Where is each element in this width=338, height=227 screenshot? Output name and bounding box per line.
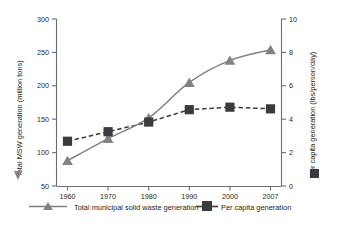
x-tick-label: 1990 (181, 192, 197, 201)
data-point-square (225, 103, 234, 112)
right-axis-title: Per capita generation (lbs/person/day) (308, 52, 317, 177)
left-tick-label: 100 (37, 148, 49, 157)
right-axis: 0246810 Per capita generation (lbs/perso… (282, 15, 320, 191)
x-tick-label: 1980 (141, 192, 157, 201)
total-msw-generation-line (68, 50, 271, 161)
right-tick-label: 0 (289, 182, 293, 191)
right-tick-label: 6 (289, 81, 293, 90)
left-axis-tick-labels: 50100150200250300 (37, 15, 49, 191)
left-tick-label: 150 (37, 115, 49, 124)
right-axis-ticks (282, 19, 287, 186)
left-axis: 50100150200250300 Total MSW generation (… (14, 15, 57, 191)
data-point-square (266, 104, 275, 113)
legend-square-icon (202, 201, 212, 211)
right-tick-label: 4 (289, 115, 293, 124)
x-tick-label: 1970 (100, 192, 116, 201)
plot-area (62, 45, 276, 165)
right-tick-label: 2 (289, 148, 293, 157)
right-axis-square-icon (310, 169, 319, 178)
x-tick-label: 2007 (263, 192, 279, 201)
legend-label-per-capita: Per capita generation (221, 203, 291, 212)
total-msw-generation-markers (62, 45, 276, 165)
data-point-square (63, 137, 72, 146)
left-axis-title: Total MSW generation (million tons) (15, 60, 24, 177)
legend-label-total-msw: Total municipal solid waste generation (74, 203, 198, 212)
left-tick-label: 250 (37, 48, 49, 57)
x-tick-label: 1960 (60, 192, 76, 201)
right-tick-label: 10 (289, 15, 297, 24)
data-point-square (144, 117, 153, 126)
left-tick-label: 300 (37, 15, 49, 24)
left-tick-label: 200 (37, 81, 49, 90)
right-axis-tick-labels: 0246810 (289, 15, 297, 191)
data-point-triangle (184, 77, 195, 86)
chart-container: 50100150200250300 Total MSW generation (… (0, 0, 338, 227)
data-point-triangle (265, 45, 276, 54)
x-axis-ticks (68, 187, 271, 191)
left-axis-ticks (52, 19, 57, 186)
chart-legend: Total municipal solid waste generation P… (29, 201, 291, 212)
x-tick-label: 2000 (222, 192, 238, 201)
right-tick-label: 8 (289, 48, 293, 57)
x-axis-tick-labels: 196019701980199020002007 (60, 192, 279, 201)
x-axis: 196019701980199020002007 (57, 187, 282, 201)
data-point-triangle (62, 156, 73, 165)
per-capita-generation-markers (63, 103, 275, 146)
left-tick-label: 50 (41, 182, 49, 191)
per-capita-generation-line (68, 107, 271, 141)
data-point-square (104, 127, 113, 136)
data-point-square (185, 105, 194, 114)
data-point-triangle (225, 55, 236, 64)
msw-generation-line-chart: 50100150200250300 Total MSW generation (… (0, 0, 338, 227)
